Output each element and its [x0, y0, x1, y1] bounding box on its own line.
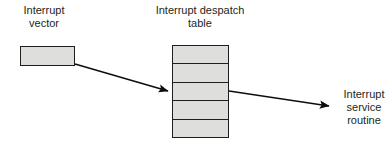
interrupt-despatch-table-label: Interrupt despatch table — [140, 4, 260, 30]
table-row — [173, 46, 228, 64]
interrupt-despatch-table-box — [172, 45, 229, 138]
interrupt-vector-label: Interrupt vector — [4, 4, 84, 30]
table-row — [173, 83, 228, 101]
table-row — [173, 101, 228, 119]
interrupt-service-routine-label: Interrupt service routine — [338, 88, 390, 127]
table-row — [173, 120, 228, 137]
interrupt-vector-box — [20, 46, 75, 66]
table-to-routine-arrow — [229, 91, 329, 106]
interrupt-despatch-diagram: Interrupt vector Interrupt despatch tabl… — [0, 0, 390, 150]
vector-to-table-arrow — [75, 64, 168, 91]
table-row — [173, 64, 228, 82]
